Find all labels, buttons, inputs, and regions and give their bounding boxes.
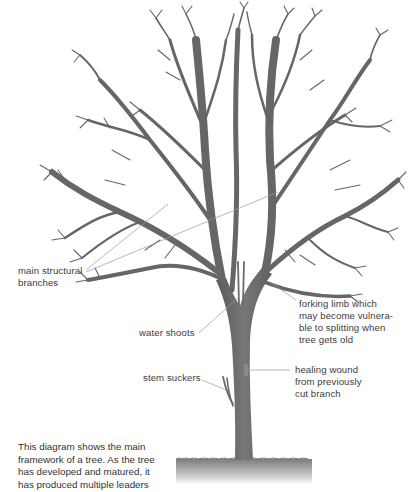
label-line: branches [18, 277, 82, 289]
label-line: healing wound [295, 364, 362, 376]
label-line: tree gets old [299, 334, 393, 346]
caption-line: has developed and matured, it [18, 466, 155, 479]
leader-stem-suckers [202, 380, 226, 390]
label-line: forking limb which [299, 298, 393, 310]
label-line: main structural [18, 265, 82, 277]
water-shoots [238, 262, 244, 306]
caption-line: framework of a tree. As the tree [18, 454, 155, 467]
label-forking-limb: forking limb which may become vulnera- b… [299, 298, 393, 346]
label-line: stem suckers [143, 372, 201, 384]
label-water-shoots: water shoots [139, 327, 195, 339]
ground [176, 458, 312, 483]
caption-line: This diagram shows the main [18, 441, 155, 454]
label-line: ble to splitting when [299, 322, 393, 334]
label-stem-suckers: stem suckers [143, 372, 201, 384]
label-healing-wound: healing wound from previously cut branch [295, 364, 362, 400]
label-line: may become vulnera- [299, 310, 393, 322]
label-main-structural-branches: main structural branches [18, 265, 82, 289]
stem-suckers [223, 377, 233, 406]
diagram-caption: This diagram shows the main framework of… [18, 441, 155, 491]
label-line: water shoots [139, 327, 195, 339]
leader-lines [86, 192, 296, 390]
tree-crown [40, 2, 406, 302]
leader-main-structural-2 [86, 192, 278, 272]
label-line: from previously [295, 376, 362, 388]
healing-wound-mark [244, 364, 248, 376]
tree-illustration [0, 0, 412, 492]
caption-line: has produced multiple leaders [18, 479, 155, 492]
label-line: cut branch [295, 388, 362, 400]
